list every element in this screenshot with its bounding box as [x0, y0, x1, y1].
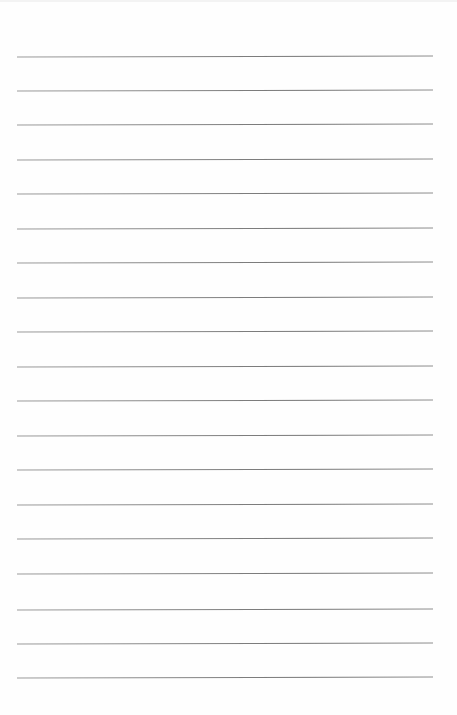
ruled-line	[17, 400, 433, 402]
ruled-line	[17, 56, 433, 58]
ruled-line	[17, 538, 433, 540]
ruled-line	[17, 159, 433, 161]
ruled-line	[17, 366, 433, 368]
lined-paper-page	[0, 0, 457, 715]
ruled-line	[17, 262, 433, 264]
ruled-line	[17, 573, 433, 575]
page-top-edge	[0, 0, 457, 2]
ruled-line	[17, 609, 433, 611]
ruled-line	[17, 435, 433, 437]
ruled-line	[17, 193, 433, 195]
ruled-line	[17, 331, 433, 333]
ruled-line	[17, 228, 433, 230]
ruled-line	[17, 297, 433, 299]
ruled-line	[17, 469, 433, 471]
ruled-line	[17, 677, 433, 679]
ruled-line	[17, 90, 433, 92]
ruled-line	[17, 643, 433, 645]
ruled-line	[17, 124, 433, 126]
ruled-line	[17, 504, 433, 506]
